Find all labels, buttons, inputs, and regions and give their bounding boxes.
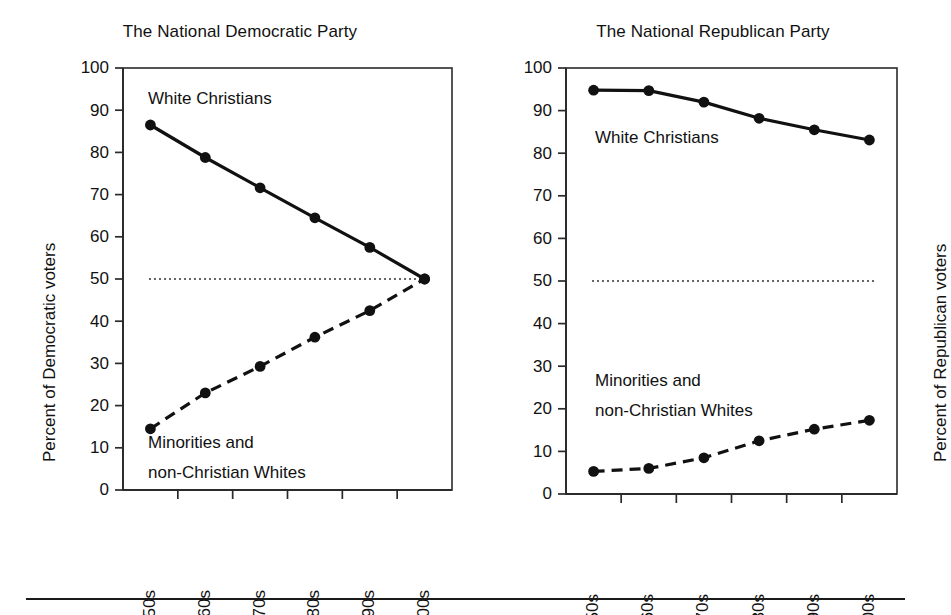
data-point-marker — [310, 212, 321, 223]
data-point-marker — [145, 120, 156, 131]
y-tick-label: 30 — [90, 354, 109, 373]
chart-panel-republican: The National Republican Party Percent of… — [443, 0, 911, 615]
y-tick-label: 0 — [543, 484, 552, 503]
y-tick-label: 90 — [90, 101, 109, 120]
data-point-marker — [643, 463, 654, 474]
x-tick-label: 1980s — [304, 590, 323, 615]
series-line-white-christians — [150, 125, 424, 279]
annotation-minorities-line2: non-Christian Whites — [595, 401, 753, 420]
data-point-marker — [864, 415, 875, 426]
data-point-marker — [200, 152, 211, 163]
data-point-marker — [364, 305, 375, 316]
data-point-marker — [754, 113, 765, 124]
plot-area-democratic: 01020304050607080901001950s1960s1970s198… — [0, 0, 468, 615]
x-tick-label: 1960s — [195, 590, 214, 615]
x-tick-label: 2000s — [414, 590, 433, 615]
data-point-marker — [643, 85, 654, 96]
y-tick-label: 100 — [524, 58, 552, 77]
y-tick-label: 10 — [533, 442, 552, 461]
x-tick-label: 1950s — [140, 590, 159, 615]
x-tick-label: 1970s — [250, 590, 269, 615]
data-point-marker — [419, 274, 430, 285]
y-tick-label: 10 — [90, 438, 109, 457]
data-point-marker — [809, 124, 820, 135]
annotation-minorities-line2: non-Christian Whites — [148, 463, 306, 482]
y-tick-label: 40 — [533, 314, 552, 333]
series-line-minorities — [594, 420, 870, 471]
y-axis-label-republican: Percent of Republican voters — [931, 244, 951, 462]
data-point-marker — [699, 452, 710, 463]
data-point-marker — [809, 424, 820, 435]
x-tick-label: 1990s — [359, 590, 378, 615]
y-tick-label: 60 — [90, 227, 109, 246]
y-tick-label: 90 — [533, 101, 552, 120]
data-point-marker — [200, 388, 211, 399]
y-tick-label: 70 — [533, 186, 552, 205]
chart-panel-democratic: The National Democratic Party Percent of… — [0, 0, 468, 615]
data-point-marker — [255, 182, 266, 193]
data-point-marker — [364, 242, 375, 253]
data-point-marker — [699, 97, 710, 108]
plot-area-republican: 01020304050607080901001950s1960s1970s198… — [443, 0, 911, 615]
annotation-minorities-line1: Minorities and — [148, 433, 254, 452]
y-tick-label: 30 — [533, 357, 552, 376]
annotation-white-christians: White Christians — [148, 89, 272, 108]
y-tick-label: 40 — [90, 312, 109, 331]
y-tick-label: 70 — [90, 185, 109, 204]
y-tick-label: 20 — [90, 396, 109, 415]
data-point-marker — [864, 135, 875, 146]
y-tick-label: 0 — [100, 480, 109, 499]
data-point-marker — [588, 85, 599, 96]
annotation-white-christians: White Christians — [595, 128, 719, 147]
y-tick-label: 80 — [533, 144, 552, 163]
y-tick-label: 80 — [90, 143, 109, 162]
annotation-minorities-line1: Minorities and — [595, 371, 701, 390]
data-point-marker — [255, 361, 266, 372]
y-tick-label: 100 — [81, 58, 109, 77]
data-point-marker — [588, 466, 599, 477]
bottom-divider-rule — [26, 598, 905, 600]
series-line-minorities — [150, 279, 424, 429]
y-tick-label: 50 — [533, 271, 552, 290]
y-tick-label: 20 — [533, 399, 552, 418]
y-tick-label: 50 — [90, 269, 109, 288]
data-point-marker — [310, 332, 321, 343]
data-point-marker — [754, 435, 765, 446]
y-tick-label: 60 — [533, 229, 552, 248]
